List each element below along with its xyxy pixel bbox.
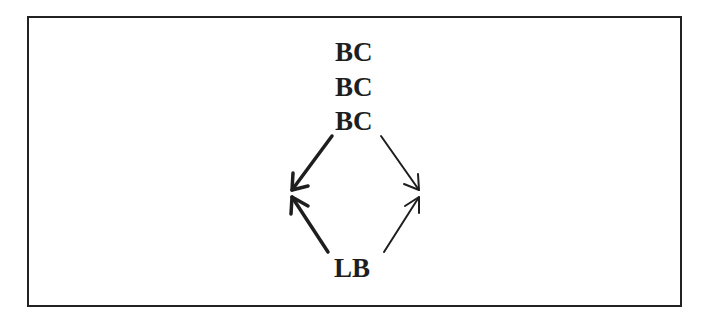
- arrow-bc-to-left-icon: [292, 136, 332, 190]
- arrow-lb-to-right-icon: [384, 197, 419, 252]
- arrow-lb-to-left-icon: [291, 197, 328, 252]
- arrows-layer: [0, 0, 709, 324]
- arrow-bc-to-right-icon: [381, 136, 419, 190]
